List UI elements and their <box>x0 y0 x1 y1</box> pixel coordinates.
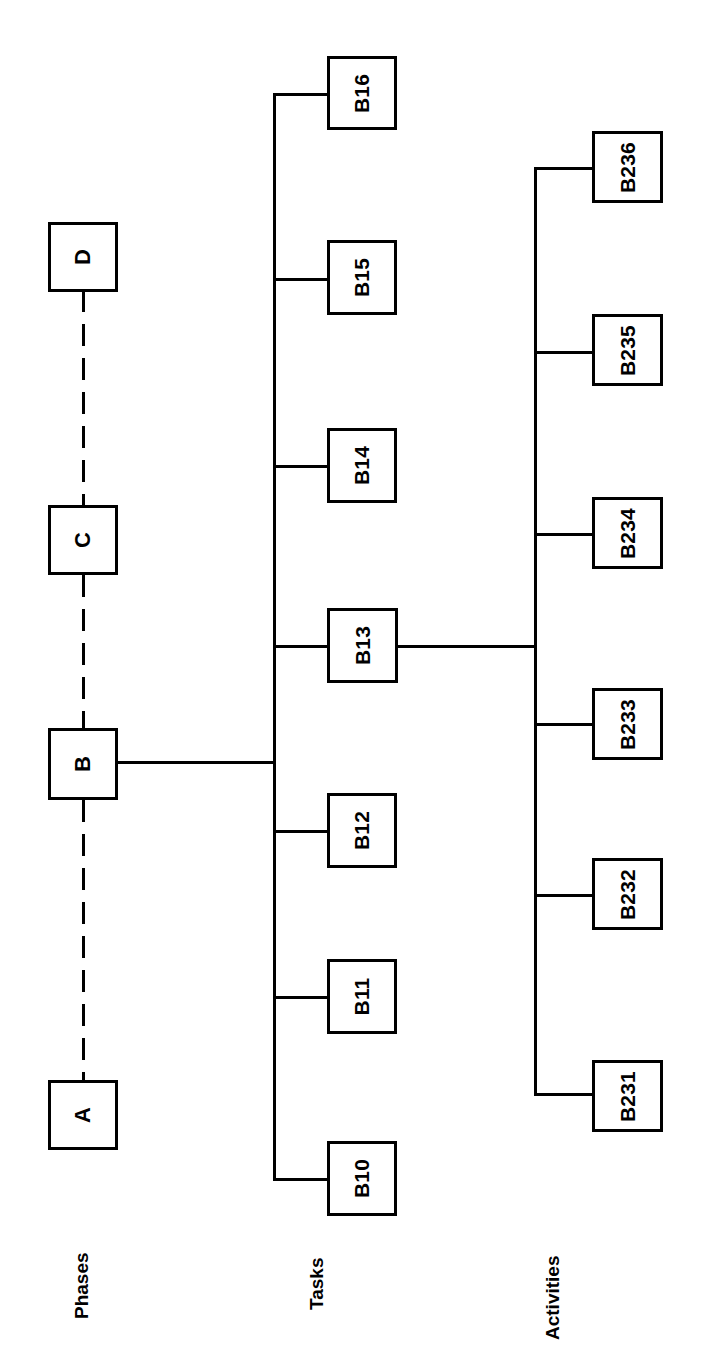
tasks-stub-b12 <box>273 830 330 833</box>
activity-node-b235-label: B235 <box>617 324 638 375</box>
activity-node-b236[interactable]: B236 <box>592 131 663 203</box>
task-node-b10-label: B10 <box>352 1159 373 1198</box>
activity-node-b231[interactable]: B231 <box>592 1060 663 1132</box>
phase-connector-c-d <box>82 290 85 505</box>
phase-node-d-label: D <box>72 249 94 265</box>
activity-node-b233[interactable]: B233 <box>592 688 663 760</box>
activities-stub-b232 <box>534 894 595 897</box>
phase-node-a[interactable]: A <box>48 1080 118 1150</box>
task-node-b15-label: B15 <box>352 258 373 297</box>
task-node-b14[interactable]: B14 <box>327 428 397 503</box>
phase-node-a-label: A <box>72 1107 94 1123</box>
row-label-tasks: Tasks <box>307 1258 326 1310</box>
task-node-b12-label: B12 <box>352 811 373 850</box>
task-node-b15[interactable]: B15 <box>327 240 397 315</box>
activity-node-b232[interactable]: B232 <box>592 858 663 930</box>
task-node-b14-label: B14 <box>352 446 373 485</box>
row-label-activities: Activities <box>543 1256 562 1340</box>
activities-stub-b234 <box>534 533 595 536</box>
task-node-b12[interactable]: B12 <box>327 793 397 868</box>
task-node-b13-label: B13 <box>352 626 373 665</box>
row-label-phases: Phases <box>72 1252 91 1319</box>
diagram-canvas: D C B A B16 B15 <box>0 0 701 1371</box>
tasks-stub-b13 <box>273 645 330 648</box>
activity-node-b234[interactable]: B234 <box>592 497 663 569</box>
activities-stub-b231 <box>534 1093 595 1096</box>
phase-node-b[interactable]: B <box>48 728 118 800</box>
activities-stub-b235 <box>534 351 595 354</box>
phase-connector-a-b <box>82 800 85 1080</box>
activity-node-b234-label: B234 <box>617 507 638 558</box>
activity-node-b236-label: B236 <box>617 141 638 192</box>
tasks-stub-b11 <box>273 996 330 999</box>
activity-node-b232-label: B232 <box>617 868 638 919</box>
phase-node-b-label: B <box>72 756 94 772</box>
tasks-trunk <box>273 93 276 1181</box>
phase-connector-b-c <box>82 575 85 728</box>
tasks-stub-b15 <box>273 278 330 281</box>
activities-stub-b233 <box>534 723 595 726</box>
activity-node-b233-label: B233 <box>617 698 638 749</box>
tasks-stub-b14 <box>273 465 330 468</box>
activity-node-b235[interactable]: B235 <box>592 314 663 386</box>
activities-stub-b236 <box>534 167 595 170</box>
phase-node-c[interactable]: C <box>48 505 118 575</box>
task-node-b10[interactable]: B10 <box>327 1141 397 1216</box>
tasks-stub-b10 <box>273 1178 330 1181</box>
task-node-b16[interactable]: B16 <box>327 56 397 130</box>
task-node-b16-label: B16 <box>352 73 373 112</box>
task-node-b11-label: B11 <box>352 978 373 1016</box>
activities-trunk <box>534 167 537 1096</box>
phase-b-to-tasks-connector <box>118 761 276 764</box>
phase-node-c-label: C <box>72 532 94 548</box>
activity-node-b231-label: B231 <box>617 1070 638 1121</box>
phase-node-d[interactable]: D <box>48 222 118 292</box>
task-node-b11[interactable]: B11 <box>327 959 397 1034</box>
tasks-stub-b16 <box>273 93 330 96</box>
task-b13-to-activities-connector <box>398 645 537 648</box>
task-node-b13[interactable]: B13 <box>327 608 398 683</box>
